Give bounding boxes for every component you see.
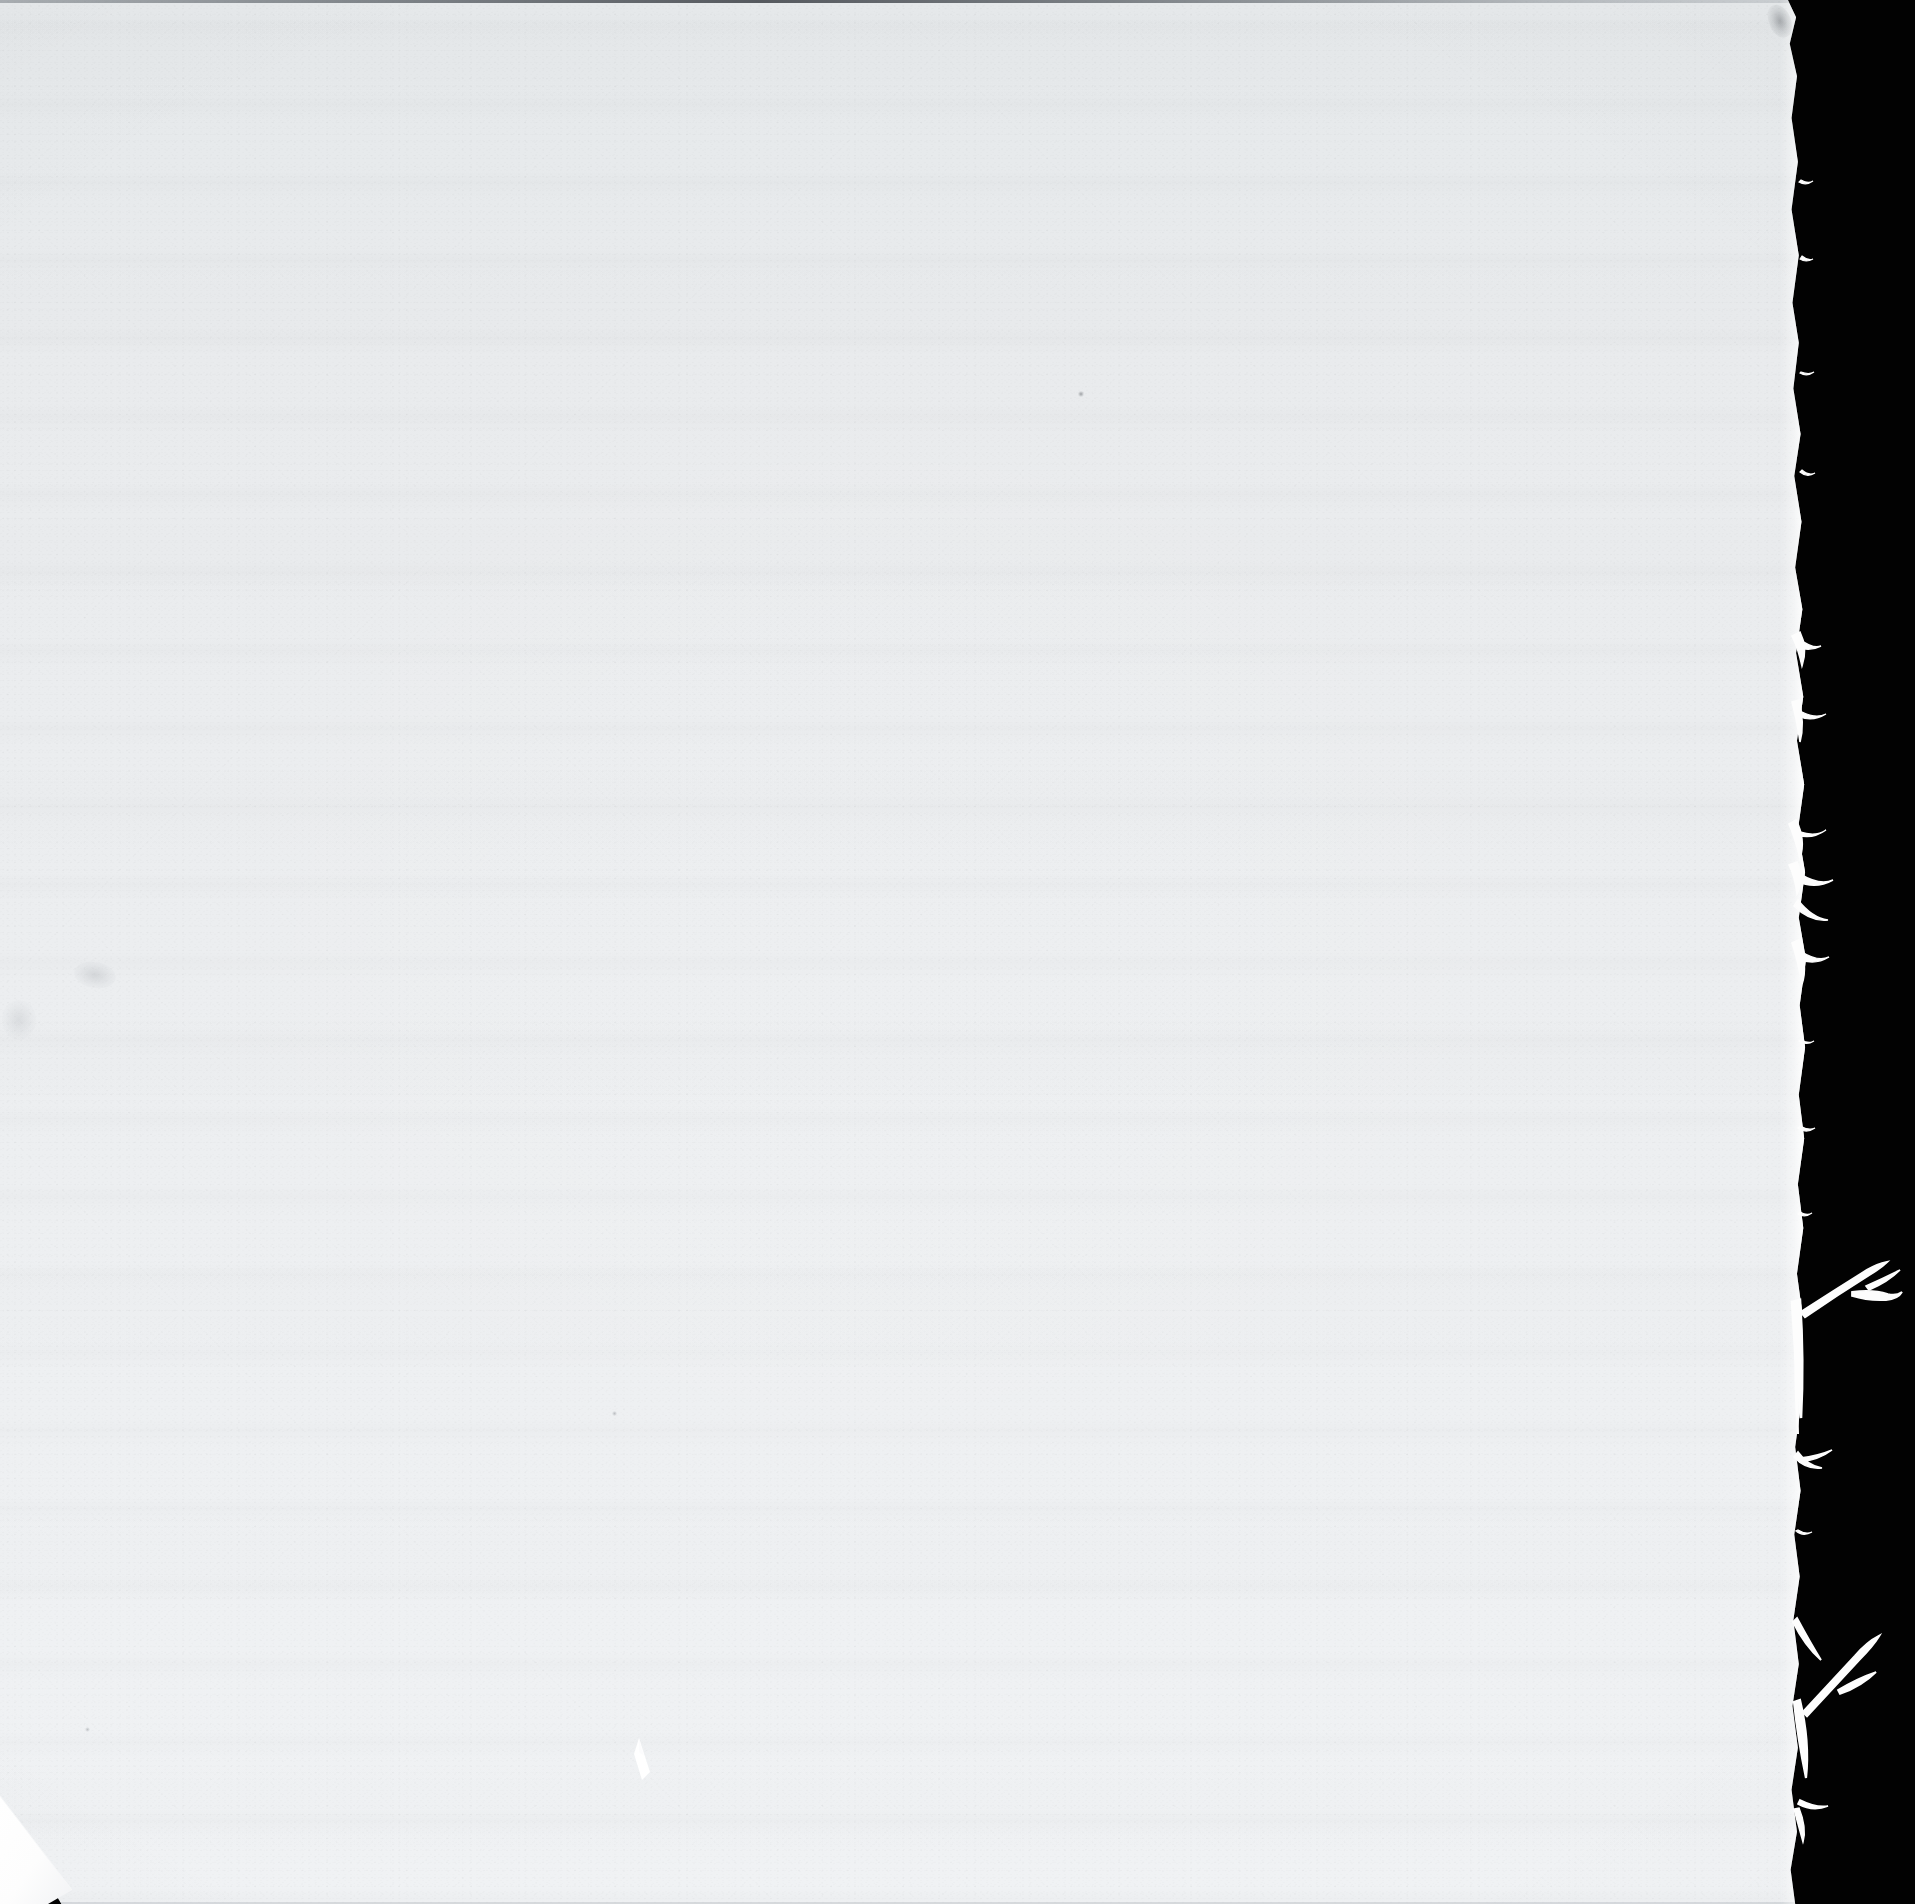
top-scan-line: [0, 0, 1806, 3]
horizontal-scan-banding: [0, 0, 1806, 1904]
paper-sheet: [0, 0, 1806, 1904]
smudge-far-left: [2, 1000, 36, 1040]
page-content-text: [0, 0, 1, 1]
speck-lower-centre: [612, 1411, 617, 1416]
smudge-left-margin: [72, 959, 118, 992]
speck-bottom-left: [85, 1727, 90, 1732]
smudge-top-right: [1764, 1, 1795, 40]
speck-mid-upper: [1078, 391, 1084, 397]
paper-grain-texture: [0, 0, 1806, 1904]
page-vignette: [0, 0, 1806, 1904]
scan-banding-coarse: [0, 0, 1806, 1904]
scanned-page-canvas: [0, 0, 1915, 1904]
